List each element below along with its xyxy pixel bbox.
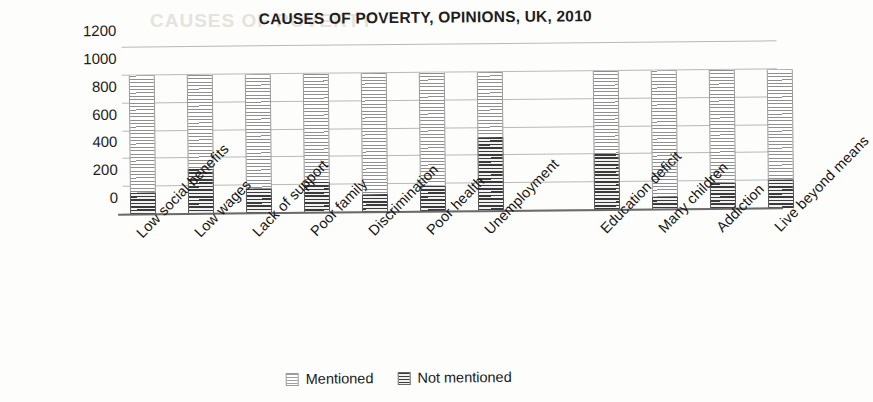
y-axis-tick-label: 800 xyxy=(47,78,117,96)
bar-segment-not-mentioned[interactable] xyxy=(652,197,678,210)
bar-segment-mentioned[interactable] xyxy=(187,75,214,170)
chart-figure: CAUSES OF POVERTY, OPINIONS, UK, 2010 02… xyxy=(0,0,796,402)
bar-low-social-benefits[interactable] xyxy=(129,75,156,214)
chart-title: CAUSES OF POVERTY, OPINIONS, UK, 2010 xyxy=(0,5,792,31)
y-axis-tick-label: 200 xyxy=(48,161,118,179)
bar-segment-mentioned[interactable] xyxy=(651,70,678,197)
bar-segment-not-mentioned[interactable] xyxy=(477,137,504,211)
plot-area: 020040060080010001200 xyxy=(122,41,779,214)
bar-low-wages[interactable] xyxy=(187,75,214,214)
y-axis-tick-label: 1200 xyxy=(46,22,116,40)
bar-segment-mentioned[interactable] xyxy=(709,70,736,183)
bar-segment-not-mentioned[interactable] xyxy=(362,194,388,212)
legend-label: Mentioned xyxy=(306,370,374,387)
chart-legend: MentionedNot mentioned xyxy=(2,366,796,390)
bar-segment-mentioned[interactable] xyxy=(593,71,620,155)
y-axis-tick-label: 400 xyxy=(47,133,117,151)
bar-segment-mentioned[interactable] xyxy=(361,73,388,194)
bar-live-beyond-means[interactable] xyxy=(767,69,794,208)
legend-swatch-icon xyxy=(397,371,410,384)
bar-segment-not-mentioned[interactable] xyxy=(246,188,272,213)
bar-segment-not-mentioned[interactable] xyxy=(130,192,156,215)
bar-lack-of-support[interactable] xyxy=(245,74,272,213)
legend-label: Not mentioned xyxy=(417,369,511,386)
legend-item-not-mentioned[interactable]: Not mentioned xyxy=(397,369,511,386)
y-axis-tick-label: 600 xyxy=(47,105,117,123)
bar-segment-mentioned[interactable] xyxy=(129,75,156,192)
bar-series-group xyxy=(122,41,779,214)
bar-segment-mentioned[interactable] xyxy=(419,72,446,185)
bar-segment-mentioned[interactable] xyxy=(477,72,504,138)
bar-unemployment[interactable] xyxy=(477,72,504,211)
legend-swatch-icon xyxy=(286,372,299,385)
bar-segment-not-mentioned[interactable] xyxy=(710,182,736,209)
bar-segment-mentioned[interactable] xyxy=(767,69,794,179)
bar-segment-mentioned[interactable] xyxy=(245,74,272,188)
bar-segment-not-mentioned[interactable] xyxy=(594,154,621,210)
bar-segment-not-mentioned[interactable] xyxy=(768,179,794,208)
bar-poor-health[interactable] xyxy=(419,72,446,211)
legend-item-mentioned[interactable]: Mentioned xyxy=(286,370,374,387)
bar-education-deficit[interactable] xyxy=(593,71,620,210)
bar-segment-not-mentioned[interactable] xyxy=(188,169,214,214)
bar-segment-mentioned[interactable] xyxy=(303,73,330,182)
y-axis-tick-label: 1000 xyxy=(47,50,117,68)
bar-segment-not-mentioned[interactable] xyxy=(420,185,446,212)
bar-segment-not-mentioned[interactable] xyxy=(304,182,330,213)
bar-poor-family[interactable] xyxy=(303,73,330,212)
y-axis-tick-label: 0 xyxy=(48,189,118,207)
bar-discrimination[interactable] xyxy=(361,73,388,212)
bar-many-children[interactable] xyxy=(651,70,678,209)
bar-addiction[interactable] xyxy=(709,70,736,209)
